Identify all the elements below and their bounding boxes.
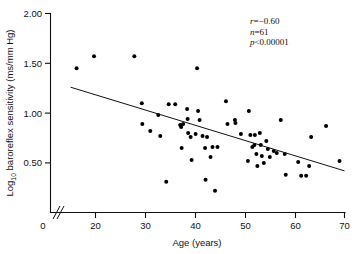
data-point (258, 131, 262, 135)
x-axis-ticks (96, 213, 345, 219)
data-point (75, 66, 79, 70)
data-point (213, 189, 217, 193)
x-axis-title: Age (years) (172, 237, 221, 248)
data-point (255, 164, 259, 168)
y-axis-title: Log10 baroreflex sensitivity (ms/mm Hg) (4, 29, 17, 196)
y-axis-title-rest: baroreflex sensitivity (ms/mm Hg) (4, 29, 15, 173)
data-point (239, 132, 243, 136)
data-point (195, 66, 199, 70)
data-point (186, 131, 190, 135)
data-point (190, 158, 194, 162)
y-tick-label-3: 2.00 (24, 8, 43, 19)
data-point (203, 146, 207, 150)
stat-p-value: p<0.00001 (249, 37, 289, 47)
data-point (284, 173, 288, 177)
data-point (279, 118, 283, 122)
data-point (205, 135, 209, 139)
data-point (140, 101, 144, 105)
data-point (201, 134, 205, 138)
y-axis-group: 2.00 1.50 1.00 0.50 Log10 baroreflex sen… (4, 8, 51, 213)
x-axis-group: 0 20 30 40 50 60 70 Age (years) (40, 206, 349, 248)
data-point (225, 122, 229, 126)
data-point (164, 180, 168, 184)
x-tick-label-5: 60 (290, 220, 301, 231)
data-point (275, 151, 279, 155)
x-tick-label-0: 0 (40, 220, 45, 231)
data-point (189, 135, 193, 139)
data-point (158, 134, 162, 138)
data-point (248, 133, 252, 137)
data-point (198, 118, 202, 122)
scatter-plot-figure: 2.00 1.50 1.00 0.50 Log10 baroreflex sen… (0, 0, 358, 254)
data-point (209, 155, 213, 159)
stat-r-value: =−0.60 (254, 16, 280, 26)
data-point (181, 122, 185, 126)
data-point (185, 107, 189, 111)
regression-line (71, 87, 345, 171)
data-point (246, 159, 250, 163)
data-point (338, 159, 342, 163)
y-tick-label-0: 0.50 (24, 157, 43, 168)
x-tick-label-2: 30 (140, 220, 151, 231)
y-axis-ticks (45, 14, 51, 163)
data-point (194, 132, 198, 136)
data-point (148, 129, 152, 133)
x-tick-label-6: 70 (339, 220, 350, 231)
data-point (299, 174, 303, 178)
x-tick-label-1: 20 (90, 220, 101, 231)
stat-n-value: =61 (255, 27, 269, 37)
data-points-layer (75, 54, 342, 192)
data-point (307, 164, 311, 168)
data-point (264, 139, 268, 143)
data-point (268, 155, 272, 159)
data-point (233, 121, 237, 125)
data-point (254, 152, 258, 156)
plot-canvas: 2.00 1.50 1.00 0.50 Log10 baroreflex sen… (0, 0, 358, 254)
data-point (296, 160, 300, 164)
statistics-annotation: r=−0.60 n=61 p<0.00001 (249, 16, 289, 47)
data-point (211, 145, 215, 149)
data-point (247, 109, 251, 113)
data-point (324, 124, 328, 128)
data-point (180, 146, 184, 150)
y-axis-tick-labels: 2.00 1.50 1.00 0.50 (24, 8, 43, 168)
stat-correlation: r=−0.60 (250, 16, 280, 26)
data-point (260, 154, 264, 158)
data-point (262, 161, 266, 165)
data-point (216, 145, 220, 149)
y-tick-label-1: 1.00 (24, 108, 43, 119)
data-point (309, 135, 313, 139)
data-point (132, 54, 136, 58)
x-tick-label-4: 50 (240, 220, 251, 231)
data-point (92, 54, 96, 58)
data-point (224, 99, 228, 103)
stat-sample-size: n=61 (250, 27, 269, 37)
data-point (173, 102, 177, 106)
y-axis-title-group: Log10 baroreflex sensitivity (ms/mm Hg) (4, 29, 17, 196)
data-point (253, 133, 257, 137)
data-point (186, 117, 190, 121)
stat-p-value-number: <0.00001 (255, 37, 289, 47)
data-point (167, 102, 171, 106)
data-point (140, 122, 144, 126)
y-tick-label-2: 1.50 (24, 58, 43, 69)
y-axis-title-prefix: Log (4, 181, 15, 197)
data-point (204, 178, 208, 182)
x-axis-tick-labels: 0 20 30 40 50 60 70 (40, 220, 349, 231)
data-point (304, 174, 308, 178)
data-point (196, 109, 200, 113)
x-tick-label-3: 40 (190, 220, 201, 231)
